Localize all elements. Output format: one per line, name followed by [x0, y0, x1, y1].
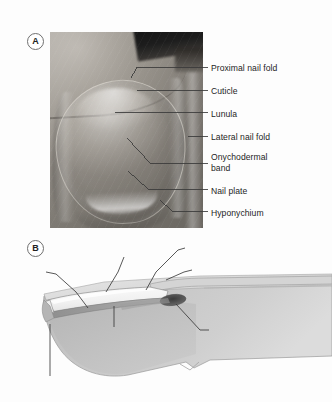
panel-marker-b: B: [27, 240, 44, 257]
photo-skin-texture: [50, 32, 203, 228]
panel-a: A: [0, 0, 332, 234]
label-onychodermal-band: Onychodermal band: [211, 152, 268, 173]
panel-marker-a: A: [27, 33, 44, 50]
figure-root: A: [0, 0, 332, 402]
label-lunula: Lunula: [211, 109, 237, 120]
label-hyponychium-a: Hyponychium: [211, 208, 264, 219]
label-nail-plate-a: Nail plate: [211, 186, 247, 197]
label-cuticle: Cuticle: [211, 86, 238, 97]
label-lateral-nail-fold: Lateral nail fold: [211, 132, 270, 143]
fingertip-cross-section-drawing: [0, 234, 332, 402]
panel-b: B: [0, 234, 332, 402]
fingernail-photograph: [50, 32, 203, 228]
label-proximal-nail-fold: Proximal nail fold: [211, 63, 277, 74]
